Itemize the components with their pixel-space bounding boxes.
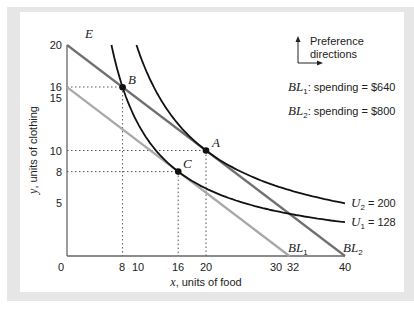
x-tick: 16	[172, 261, 184, 273]
y-tick: 5	[56, 197, 62, 209]
x-tick: 0	[58, 261, 64, 273]
x-tick: 8	[119, 261, 125, 273]
label-u1: U1 = 128	[351, 214, 396, 231]
label-c: C	[183, 156, 192, 171]
guide-lines	[67, 87, 206, 256]
chart-svg: E B A C 20 16 15 10 8 5 0 8 10 16 20 30 …	[0, 0, 414, 313]
point-c	[175, 168, 182, 175]
x-tick: 30	[270, 261, 282, 273]
y-tick: 20	[50, 39, 62, 51]
x-tick: 10	[132, 261, 144, 273]
preference-label-line1: Preference	[310, 35, 364, 47]
label-b: B	[128, 72, 136, 87]
label-e: E	[84, 26, 93, 41]
y-axis-label: y, units of clothing	[26, 106, 40, 195]
y-tick-labels: 20 16 15 10 8 5	[50, 39, 62, 209]
label-a: A	[211, 135, 220, 150]
y-tick: 15	[50, 92, 62, 104]
x-tick-labels: 0 8 10 16 20 30 32 40	[58, 261, 351, 273]
point-a	[203, 147, 210, 154]
indifference-curve-u2	[137, 45, 346, 203]
label-bl1-end: BL1	[288, 240, 308, 257]
preference-label-line2: directions	[310, 48, 358, 60]
x-tick: 32	[287, 261, 299, 273]
label-bl2-end: BL2	[343, 240, 363, 257]
y-tick: 8	[56, 166, 62, 178]
label-u2: U2 = 200	[351, 195, 396, 212]
legend-bl2: BL2: spending = $800	[288, 103, 395, 120]
x-axis-label: x, units of food	[169, 275, 241, 289]
x-tick: 40	[339, 261, 351, 273]
y-tick: 10	[50, 145, 62, 157]
point-b	[119, 84, 126, 91]
legend-bl1: BL1: spending = $640	[288, 79, 395, 96]
x-tick: 20	[200, 261, 212, 273]
